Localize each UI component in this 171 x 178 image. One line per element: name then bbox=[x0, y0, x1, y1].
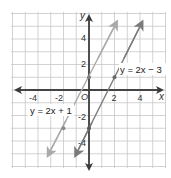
y-tick-label: 2 bbox=[81, 59, 86, 69]
y-axis-label: y bbox=[79, 10, 86, 21]
equation-label-y-2x-plus-1: y = 2x + 1 bbox=[30, 105, 72, 116]
data-point bbox=[87, 126, 91, 130]
x-axis-label: x bbox=[158, 91, 165, 102]
x-tick-label: 2 bbox=[111, 93, 116, 103]
coordinate-graph: x y O -4 -2 2 4 4 2 -2 -4 y = 2x − 3 y =… bbox=[0, 0, 171, 178]
y-tick-label: 4 bbox=[81, 33, 86, 43]
equation-label-y-2x-minus-3: y = 2x − 3 bbox=[120, 64, 162, 75]
x-tick-label: -4 bbox=[29, 93, 37, 103]
data-point bbox=[87, 75, 91, 79]
y-tick-label: -2 bbox=[78, 112, 86, 122]
x-tick-label: 4 bbox=[137, 93, 142, 103]
data-point bbox=[113, 75, 117, 79]
x-tick-label: -2 bbox=[55, 93, 63, 103]
data-point bbox=[62, 126, 66, 130]
origin-label: O bbox=[81, 92, 88, 102]
